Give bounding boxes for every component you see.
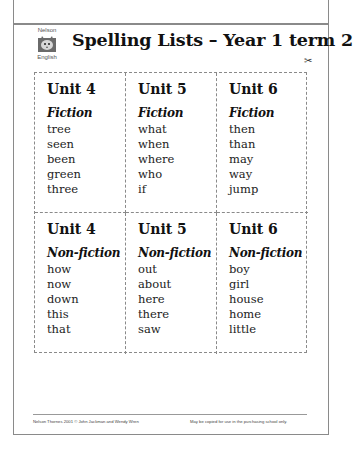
word: tree [47,122,125,137]
nelson-english-logo: Nelson English [33,27,61,63]
unit-heading: Unit 6 [229,80,308,98]
word: how [47,262,125,277]
unit-heading: Unit 5 [138,220,216,238]
word-list: then than may way jump [229,122,308,197]
spelling-card: Unit 4 Non-fiction how now down this tha… [35,213,126,354]
genre-heading: Non-fiction [229,246,308,260]
word: green [47,167,125,182]
word-list: tree seen been green three [47,122,125,197]
spelling-card: Unit 5 Fiction what when where who if [126,73,217,213]
unit-heading: Unit 4 [47,80,125,98]
page-title: Spelling Lists – Year 1 term 2 [72,30,353,50]
word: boy [229,262,308,277]
genre-heading: Non-fiction [138,246,216,260]
word-list: how now down this that [47,262,125,337]
logo-top-text: Nelson [33,27,61,34]
word: down [47,292,125,307]
word: seen [47,137,125,152]
spelling-card: Unit 6 Non-fiction boy girl house home l… [217,213,308,354]
word: house [229,292,308,307]
word: this [47,307,125,322]
word-list: out about here there saw [138,262,216,337]
unit-heading: Unit 6 [229,220,308,238]
word: now [47,277,125,292]
spelling-card: Unit 6 Fiction then than may way jump [217,73,308,213]
spelling-card: Unit 4 Fiction tree seen been green thre… [35,73,126,213]
word: may [229,152,308,167]
word-list: boy girl house home little [229,262,308,337]
copyright-text: Nelson Thornes 2001 © John Jackman and W… [33,419,139,424]
word: way [229,167,308,182]
word: then [229,122,308,137]
scissors-icon: ✂ [304,56,312,66]
word: that [47,322,125,337]
word: home [229,307,308,322]
logo-bottom-text: English [33,54,61,61]
header-divider [13,23,329,25]
footer-divider [33,414,307,415]
word: three [47,182,125,197]
word: been [47,152,125,167]
cat-icon [37,35,57,53]
word: jump [229,182,308,197]
spelling-grid: Unit 4 Fiction tree seen been green thre… [34,72,307,353]
word: saw [138,322,216,337]
genre-heading: Fiction [229,106,308,120]
word: what [138,122,216,137]
word: little [229,322,308,337]
unit-heading: Unit 5 [138,80,216,98]
word: there [138,307,216,322]
word: about [138,277,216,292]
word: out [138,262,216,277]
word: when [138,137,216,152]
spelling-card: Unit 5 Non-fiction out about here there … [126,213,217,354]
word: if [138,182,216,197]
word: girl [229,277,308,292]
word: here [138,292,216,307]
word: where [138,152,216,167]
genre-heading: Non-fiction [47,246,125,260]
genre-heading: Fiction [47,106,125,120]
word: who [138,167,216,182]
genre-heading: Fiction [138,106,216,120]
unit-heading: Unit 4 [47,220,125,238]
word: than [229,137,308,152]
word-list: what when where who if [138,122,216,197]
permission-text: May be copied for use in the purchasing … [190,419,287,424]
